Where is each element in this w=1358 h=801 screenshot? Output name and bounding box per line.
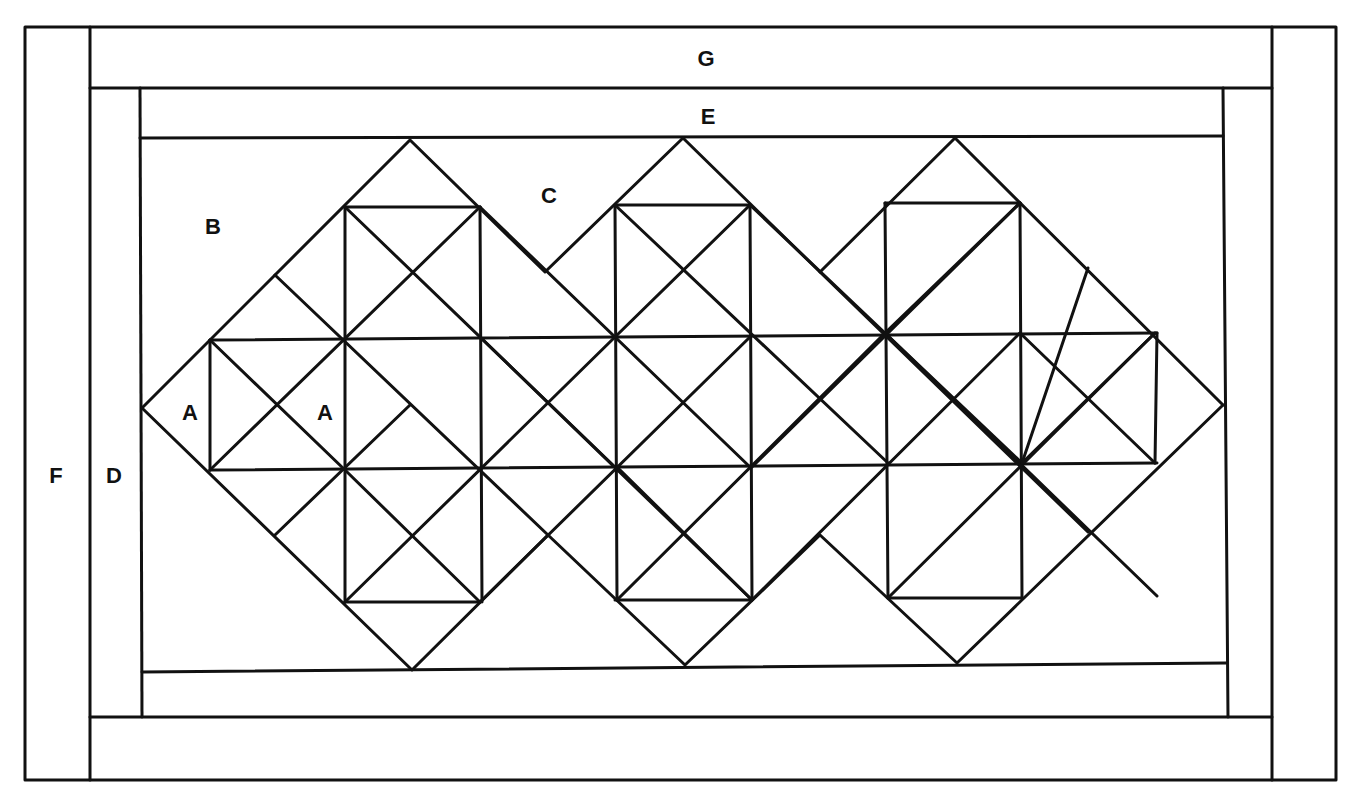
label-A-left: A bbox=[182, 400, 198, 425]
diamond-lattice bbox=[142, 138, 1223, 670]
label-E: E bbox=[701, 104, 716, 129]
right-border-D-edge bbox=[1223, 88, 1228, 717]
left-border-D-edge bbox=[140, 88, 142, 717]
label-D: D bbox=[106, 463, 122, 488]
label-C: C bbox=[541, 183, 557, 208]
label-G: G bbox=[697, 46, 714, 71]
label-A-right: A bbox=[317, 400, 333, 425]
label-F: F bbox=[49, 463, 62, 488]
label-B: B bbox=[205, 214, 221, 239]
quilt-diagram: G E F D B C A A bbox=[0, 0, 1358, 801]
